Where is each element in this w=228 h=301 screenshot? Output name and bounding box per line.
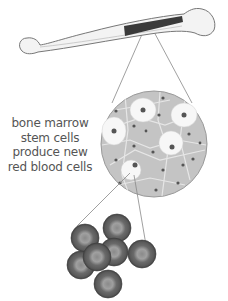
caption-line: bone marrow	[0, 116, 100, 131]
red-blood-cell	[128, 240, 156, 268]
caption-line: stem cells	[0, 131, 100, 146]
red-blood-cell	[103, 214, 131, 242]
marrow-magnified-view	[101, 91, 207, 197]
red-blood-cell	[94, 270, 122, 298]
caption-line: produce new	[0, 145, 100, 160]
caption-text: bone marrow stem cells produce new red b…	[0, 116, 100, 174]
caption-line: red blood cells	[0, 160, 100, 175]
red-blood-cell	[83, 243, 111, 271]
bone-illustration	[20, 8, 215, 53]
